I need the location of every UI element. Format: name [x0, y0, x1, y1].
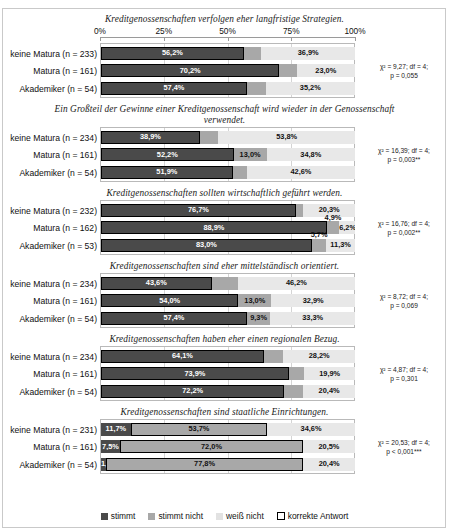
bar-segment-stimmt-nicht: 7,3%: [200, 131, 219, 144]
bar-value-label: 57,4%: [163, 84, 184, 91]
stats-p-line: p = 0,069: [360, 301, 448, 310]
panel-title: Kreditgenossenschaften sollten wirtschaf…: [0, 188, 449, 199]
category-label: keine Matura (n = 233): [10, 49, 97, 59]
bar-segment-stimmt: 52,2%: [101, 148, 234, 161]
bar-segment-stimmt: 72,2%: [101, 385, 284, 398]
stats-chi-line: χ² = 16,39; df = 4;: [360, 146, 448, 155]
bar-segment-weiß-nicht: 6,2%: [339, 221, 355, 234]
bar-segment-stimmt: 54,0%: [101, 294, 238, 307]
bar-value-label: 77,8%: [194, 460, 215, 467]
bar-segment-stimmt-nicht: 7,7%: [264, 350, 284, 363]
category-label: Akademiker (n = 54): [19, 387, 97, 397]
legend-swatch-stimmt-nicht: [148, 513, 155, 520]
bar-value-label: 9,3%: [250, 314, 267, 321]
bar-value-label: 72,0%: [201, 443, 222, 450]
bar-value-label: 23,0%: [315, 67, 336, 74]
chi-square-stats: χ² = 8,72; df = 4;p = 0,069: [360, 292, 448, 310]
bar-value-label: 19,9%: [319, 370, 340, 377]
bar-value-label: 13,0%: [244, 297, 265, 304]
stacked-bar: 52,2%13,0%34,8%: [101, 148, 355, 161]
stats-p-line: p = 0,003**: [360, 155, 448, 164]
bar-value-label: 36,9%: [298, 49, 319, 56]
bar-value-label: 34,6%: [301, 425, 322, 432]
stats-chi-line: χ² = 4,87; df = 4;: [360, 365, 448, 374]
bar-segment-stimmt-nicht: 6,8%: [279, 64, 296, 77]
axis-tick-mark: [291, 37, 292, 41]
bar-segment-weiß-nicht: 35,2%: [266, 82, 355, 95]
chart-panel: Ein Großteil der Gewinne einer Kreditgen…: [0, 104, 449, 126]
stacked-bar: 38,9%7,3%53,8%: [101, 131, 355, 144]
bar-value-label: 7,5%: [102, 443, 119, 450]
bar-value-label: 46,2%: [286, 279, 307, 286]
axis-tick-label: 25%: [155, 26, 172, 36]
bar-value-label: 20,5%: [318, 443, 339, 450]
bar-segment-stimmt-nicht: 3,0%: [296, 204, 304, 217]
bar-segment-weiß-nicht: 53,8%: [218, 131, 355, 144]
bar-value-label: 57,4%: [163, 314, 184, 321]
legend-item: stimmt nicht: [148, 511, 203, 521]
stacked-bar: 72,2%7,4%20,4%: [101, 385, 355, 398]
stats-chi-line: χ² = 16,76; df = 4;: [360, 219, 448, 228]
stacked-bar: 73,9%6,2%19,9%: [101, 367, 355, 380]
chart-panel: Kreditgenossenschaften verfolgen eher la…: [0, 14, 449, 25]
bar-segment-stimmt-nicht: 72,0%: [120, 440, 303, 453]
axis-tick-label: 0%: [94, 26, 106, 36]
category-label: Matura (n = 161): [33, 150, 97, 160]
bar-value-label: 6,2%: [339, 224, 355, 231]
bar-segment-weiß-nicht: 28,2%: [283, 350, 355, 363]
category-label: keine Matura (n = 231): [10, 425, 97, 435]
bar-value-label: 72,2%: [182, 387, 203, 394]
category-label: Akademiker (n = 54): [19, 460, 97, 470]
bar-segment-weiß-nicht: 33,3%: [270, 312, 355, 325]
bar-value-label: 53,8%: [276, 133, 297, 140]
legend-label: korrekte Antwort: [288, 511, 349, 521]
panel-title: Kreditgenossenschaften sind staatliche E…: [0, 407, 449, 418]
bar-segment-stimmt: 11,7%: [101, 423, 131, 436]
chi-square-stats: χ² = 20,53; df = 4;p < 0,001***: [360, 438, 448, 456]
category-label: Akademiker (n = 53): [19, 241, 97, 251]
category-label: keine Matura (n = 234): [10, 352, 97, 362]
bar-value-label: 54,0%: [159, 297, 180, 304]
stats-p-line: p < 0,001***: [360, 447, 448, 456]
stats-chi-line: χ² = 9,27; df = 4;: [360, 62, 448, 71]
bar-segment-stimmt-nicht: 4,9%: [327, 221, 339, 234]
bar-segment-stimmt-nicht: 77,8%: [106, 458, 303, 471]
legend-label: stimmt nicht: [158, 511, 203, 521]
chi-square-stats: χ² = 16,39; df = 4;p = 0,003**: [360, 146, 448, 164]
stats-p-line: p = 0,301: [360, 374, 448, 383]
stats-chi-line: χ² = 8,72; df = 4;: [360, 292, 448, 301]
bar-segment-weiß-nicht: 42,6%: [247, 166, 355, 179]
stats-p-line: p = 0,055: [360, 71, 448, 80]
stacked-bar: 1,9%77,8%20,4%: [101, 458, 355, 471]
bar-value-label: 88,9%: [203, 224, 224, 231]
chi-square-stats: χ² = 16,76; df = 4;p = 0,002**: [360, 219, 448, 237]
bar-segment-stimmt-nicht: 9,3%: [247, 312, 271, 325]
stacked-bar: 51,9%5,6%42,6%: [101, 166, 355, 179]
category-label: keine Matura (n = 234): [10, 133, 97, 143]
chart-panel: Kreditgenossenschaften sind eher mittels…: [0, 261, 449, 272]
axis-tick-mark: [100, 37, 101, 41]
stacked-bar: 56,2%6,9%36,9%: [101, 47, 355, 60]
category-label: Matura (n = 161): [33, 442, 97, 452]
bar-value-label: 38,9%: [140, 133, 161, 140]
category-label: Matura (n = 162): [33, 223, 97, 233]
bar-segment-stimmt-nicht: 6,2%: [289, 367, 305, 380]
bar-value-label: 33,3%: [302, 314, 323, 321]
bar-segment-weiß-nicht: 36,9%: [261, 47, 355, 60]
bar-value-label: 52,2%: [157, 151, 178, 158]
bar-value-label: 53,7%: [188, 425, 209, 432]
bar-segment-weiß-nicht: 34,6%: [267, 423, 355, 436]
chart-panel: Kreditgenossenschaften haben eher einen …: [0, 334, 449, 345]
bar-segment-weiß-nicht: 11,3%: [326, 239, 355, 252]
bar-segment-stimmt: 43,6%: [101, 277, 212, 290]
stacked-bar: 64,1%7,7%28,2%: [101, 350, 355, 363]
bar-segment-stimmt-nicht: 10,3%: [212, 277, 238, 290]
bar-value-label: 35,2%: [300, 84, 321, 91]
legend-item: weiß nicht: [216, 511, 264, 521]
stacked-bar: 70,2%6,8%23,0%: [101, 64, 355, 77]
category-label: Akademiker (n = 54): [19, 314, 97, 324]
bar-value-label: 51,9%: [156, 168, 177, 175]
bar-value-label: 11,3%: [330, 241, 351, 248]
chart-panel: Kreditgenossenschaften sind staatliche E…: [0, 407, 449, 418]
bar-value-label: 73,9%: [184, 370, 205, 377]
